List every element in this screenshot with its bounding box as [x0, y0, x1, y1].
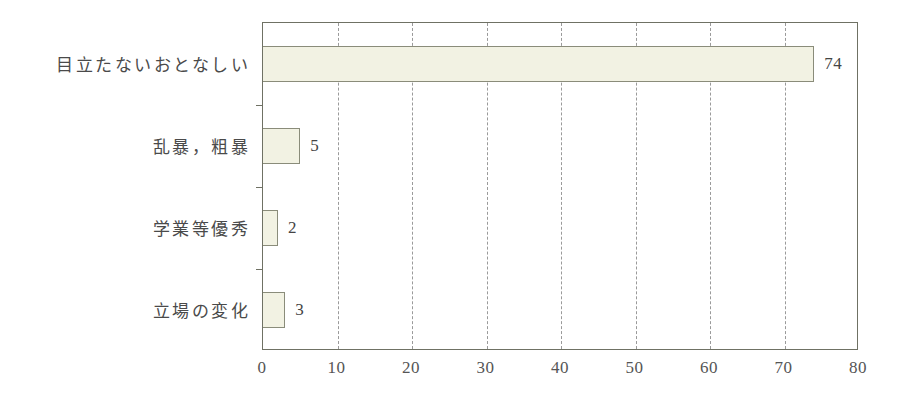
bar-value-label: 2	[278, 218, 297, 238]
bar[interactable]	[263, 46, 814, 82]
bar-band: 5	[263, 128, 857, 164]
bar[interactable]	[263, 292, 285, 328]
bar[interactable]	[263, 210, 278, 246]
bar-value-label: 5	[300, 136, 319, 156]
axis-minor-tick	[256, 105, 263, 106]
category-label: 乱暴，粗暴	[153, 133, 251, 158]
x-tick-label-30: 30	[477, 358, 495, 378]
bar-chart: 74523 目立たないおとなしい乱暴，粗暴学業等優秀立場の変化 01020304…	[0, 0, 902, 415]
category-label: 学業等優秀	[153, 215, 251, 240]
x-tick-label-80: 80	[849, 358, 867, 378]
bar-value-label: 3	[285, 300, 304, 320]
bar-band: 2	[263, 210, 857, 246]
plot-area: 74523	[262, 22, 858, 350]
x-tick-label-20: 20	[402, 358, 420, 378]
x-tick-label-50: 50	[626, 358, 644, 378]
axis-minor-tick	[256, 187, 263, 188]
x-tick-label-10: 10	[328, 358, 346, 378]
bar-value-label: 74	[814, 54, 842, 74]
x-tick-label-60: 60	[700, 358, 718, 378]
bar-band: 3	[263, 292, 857, 328]
category-label: 目立たないおとなしい	[56, 51, 250, 76]
x-tick-label-40: 40	[551, 358, 569, 378]
bar-band: 74	[263, 46, 857, 82]
axis-minor-tick	[256, 269, 263, 270]
category-label: 立場の変化	[153, 297, 251, 322]
x-tick-label-70: 70	[775, 358, 793, 378]
bar[interactable]	[263, 128, 300, 164]
x-tick-label-0: 0	[258, 358, 267, 378]
